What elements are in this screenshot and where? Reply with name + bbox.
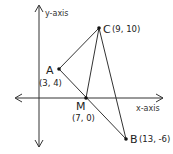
coordinate-diagram: y-axis x-axis A (3, 4) C (9, 10) M (7, 0… (0, 0, 173, 154)
y-axis (35, 5, 43, 147)
point-m-label: M (76, 100, 86, 113)
point-a-dot (57, 67, 61, 71)
point-b-dot (124, 137, 128, 141)
segment-ab (59, 69, 126, 139)
point-a-coord: (3, 4) (39, 78, 62, 88)
point-b-coord: (13, -6) (139, 134, 170, 144)
y-axis-label: y-axis (45, 9, 69, 18)
point-m-coord: (7, 0) (72, 113, 95, 123)
segment-cb (99, 28, 126, 139)
point-a-label: A (46, 64, 54, 77)
segment-cm (86, 28, 99, 98)
point-c-coord: (9, 10) (112, 24, 140, 34)
point-b-label: B (130, 133, 138, 146)
point-c-label: C (103, 23, 111, 36)
point-c-dot (97, 26, 101, 30)
x-axis-label: x-axis (136, 104, 160, 113)
